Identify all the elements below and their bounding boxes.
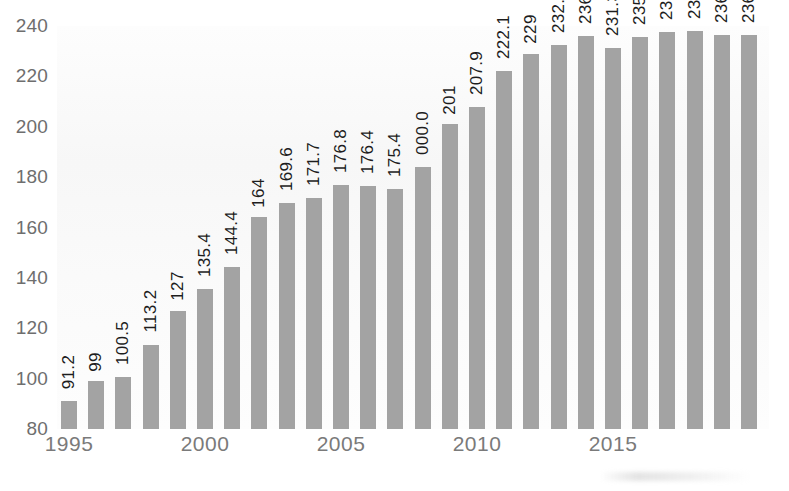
- bar-value-label: 113.2: [141, 290, 161, 333]
- bar-value-label: 236.6: [712, 0, 732, 23]
- bar-slot: 169.6: [279, 26, 295, 429]
- bar-value-label: 169.6: [277, 147, 297, 191]
- bar-slot: 99: [88, 26, 104, 429]
- y-axis-tick-label: 220: [16, 65, 48, 87]
- bar[interactable]: [170, 311, 186, 429]
- bar-value-label: 232.5: [549, 0, 569, 33]
- bar-chart: 24022020018016014012010080 91.299100.511…: [0, 0, 789, 491]
- bar-value-label: 238.2: [685, 0, 705, 19]
- x-axis-tick-label: 2005: [317, 432, 366, 456]
- bar-slot: 231.3: [605, 26, 621, 429]
- bar-value-label: 229: [521, 15, 541, 44]
- bar[interactable]: [333, 185, 349, 429]
- bar-slot: 144.4: [224, 26, 240, 429]
- bar[interactable]: [551, 45, 567, 429]
- bar[interactable]: [306, 198, 322, 429]
- bar-slot: 235.6: [632, 26, 648, 429]
- bar[interactable]: [687, 31, 703, 429]
- bar-value-label: 237.6: [657, 0, 677, 20]
- bar[interactable]: [578, 36, 594, 429]
- bar[interactable]: [61, 401, 77, 429]
- plot-area: 91.299100.5113.2127135.4144.4164169.6171…: [57, 26, 769, 429]
- y-axis-tick-label: 120: [16, 317, 48, 339]
- bar-value-label: 201: [440, 85, 460, 114]
- bar-value-label: 176.8: [331, 129, 351, 173]
- bar-value-label: 000.0: [413, 111, 433, 155]
- bar-slot: 135.4: [197, 26, 213, 429]
- bar-value-label: 171.7: [304, 142, 324, 186]
- bar-slot: 201: [442, 26, 458, 429]
- bar-value-label: 135.4: [195, 233, 215, 277]
- y-axis: 24022020018016014012010080: [0, 0, 57, 491]
- bar-slot: 100.5: [115, 26, 131, 429]
- y-axis-tick-label: 180: [16, 166, 48, 188]
- bar[interactable]: [605, 48, 621, 429]
- bar-slot: 222.1: [496, 26, 512, 429]
- x-axis-tick-label: 2000: [181, 432, 230, 456]
- bar[interactable]: [224, 267, 240, 429]
- bar[interactable]: [387, 189, 403, 429]
- bar-slot: 237.6: [659, 26, 675, 429]
- bar-value-label: 235.6: [630, 0, 650, 25]
- bar-value-label: 231.3: [603, 0, 623, 36]
- bar-value-label: 127: [168, 272, 188, 301]
- bar[interactable]: [741, 35, 757, 429]
- y-axis-tick-label: 200: [16, 116, 48, 138]
- bar-value-label: 236.1: [576, 0, 596, 24]
- bar[interactable]: [496, 71, 512, 429]
- bar-value-label: 144.4: [222, 211, 242, 255]
- y-axis-tick-label: 240: [16, 15, 48, 37]
- bar[interactable]: [442, 124, 458, 429]
- bar[interactable]: [659, 32, 675, 429]
- bar-value-label: 100.5: [113, 321, 133, 365]
- bar[interactable]: [251, 217, 267, 429]
- x-axis-tick-label: 2015: [589, 432, 638, 456]
- bar[interactable]: [143, 345, 159, 429]
- bar-slot: 176.4: [360, 26, 376, 429]
- bar-slot: 238.2: [687, 26, 703, 429]
- bar-slot: 113.2: [143, 26, 159, 429]
- bar-slot: 127: [170, 26, 186, 429]
- bar-slot: 236.1: [578, 26, 594, 429]
- bar-value-label: 176.4: [358, 130, 378, 174]
- x-axis-tick-label: 1995: [45, 432, 94, 456]
- bar-slot: 236.6: [741, 26, 757, 429]
- bar-value-label: 175.4: [385, 133, 405, 177]
- bar-slot: 236.6: [714, 26, 730, 429]
- bar[interactable]: [523, 54, 539, 429]
- bar-slot: 232.5: [551, 26, 567, 429]
- bar-slot: 164: [251, 26, 267, 429]
- bar[interactable]: [360, 186, 376, 429]
- bar-slot: 229: [523, 26, 539, 429]
- bar[interactable]: [469, 107, 485, 429]
- y-axis-tick-label: 140: [16, 267, 48, 289]
- bar-value-label: 222.1: [494, 15, 514, 59]
- bar-slot: 176.8: [333, 26, 349, 429]
- bar-slot: 175.4: [387, 26, 403, 429]
- x-axis: 19952000200520102015: [57, 432, 769, 472]
- y-axis-tick-label: 160: [16, 217, 48, 239]
- y-axis-tick-label: 100: [16, 368, 48, 390]
- bar[interactable]: [714, 35, 730, 429]
- bar[interactable]: [415, 167, 431, 429]
- bar-value-label: 236.6: [739, 0, 759, 23]
- bar[interactable]: [279, 203, 295, 429]
- bar-slot: 91.2: [61, 26, 77, 429]
- bar[interactable]: [115, 377, 131, 429]
- scan-artifact: [600, 472, 750, 481]
- bar-value-label: 164: [249, 178, 269, 207]
- bar-value-label: 99: [86, 352, 106, 372]
- bar-value-label: 91.2: [59, 354, 79, 388]
- bar-slot: 171.7: [306, 26, 322, 429]
- bar-value-label: 207.9: [467, 51, 487, 95]
- bar-slot: 000.0: [415, 26, 431, 429]
- bar[interactable]: [197, 289, 213, 429]
- bar[interactable]: [88, 381, 104, 429]
- bar-slot: 207.9: [469, 26, 485, 429]
- bar[interactable]: [632, 37, 648, 429]
- x-axis-tick-label: 2010: [453, 432, 502, 456]
